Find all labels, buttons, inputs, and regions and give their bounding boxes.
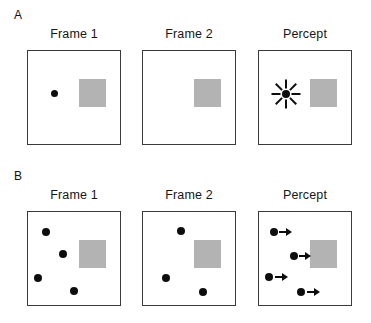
stimulus-box-b-frame-2 bbox=[142, 211, 236, 306]
dot bbox=[265, 273, 273, 281]
occluder-square bbox=[310, 79, 338, 107]
occluder-square bbox=[79, 79, 107, 107]
stimulus-box-a-percept bbox=[258, 50, 352, 145]
panel-b-column-frame-2: Frame 2 bbox=[141, 161, 237, 322]
dot bbox=[70, 287, 78, 295]
column-title-frame-1: Frame 1 bbox=[26, 27, 122, 41]
panel-a-column-percept: Percept bbox=[257, 0, 353, 161]
column-title-percept: Percept bbox=[257, 188, 353, 202]
stimulus-box-b-percept bbox=[258, 211, 352, 306]
column-title-frame-1: Frame 1 bbox=[26, 188, 122, 202]
dot bbox=[297, 288, 305, 296]
occluder-square bbox=[194, 79, 222, 107]
occluder-square bbox=[79, 240, 107, 268]
dot bbox=[42, 228, 50, 236]
dot bbox=[282, 90, 290, 98]
panel-a: A Frame 1 Frame 2 Percept bbox=[0, 0, 371, 161]
dot bbox=[177, 227, 185, 235]
stimulus-box-b-frame-1 bbox=[27, 211, 121, 306]
motion-arrow-icon bbox=[307, 288, 320, 296]
stimulus-box-a-frame-1 bbox=[27, 50, 121, 145]
dot bbox=[270, 228, 278, 236]
dot bbox=[162, 274, 170, 282]
column-title-frame-2: Frame 2 bbox=[141, 188, 237, 202]
panel-letter-a: A bbox=[14, 8, 22, 22]
motion-arrow-icon bbox=[279, 228, 292, 236]
column-title-frame-2: Frame 2 bbox=[141, 27, 237, 41]
panel-b: B Frame 1 Frame 2 Percept bbox=[0, 161, 371, 322]
dot bbox=[290, 252, 298, 260]
motion-arrow-icon bbox=[299, 252, 311, 260]
dot bbox=[59, 250, 67, 258]
motion-arrow-icon bbox=[275, 273, 288, 281]
panel-letter-b: B bbox=[14, 169, 22, 183]
panel-b-column-frame-1: Frame 1 bbox=[26, 161, 122, 322]
occluder-square bbox=[310, 240, 338, 268]
panel-a-column-frame-2: Frame 2 bbox=[141, 0, 237, 161]
panel-b-column-percept: Percept bbox=[257, 161, 353, 322]
dot bbox=[34, 274, 42, 282]
dot bbox=[51, 90, 58, 97]
stimulus-box-a-frame-2 bbox=[142, 50, 236, 145]
column-title-percept: Percept bbox=[257, 27, 353, 41]
figure-apparent-motion: A Frame 1 Frame 2 Percept bbox=[0, 0, 371, 323]
panel-a-column-frame-1: Frame 1 bbox=[26, 0, 122, 161]
occluder-square bbox=[194, 240, 222, 268]
dot bbox=[199, 288, 207, 296]
